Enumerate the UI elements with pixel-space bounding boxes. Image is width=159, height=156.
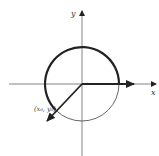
circle-diagram: y x (x₀, y₀) [0, 0, 159, 156]
x-axis-label: x [151, 88, 156, 97]
y-axis-label: y [70, 9, 76, 18]
point-label: (x₀, y₀) [34, 105, 56, 113]
point-vector-arrow [47, 84, 82, 121]
